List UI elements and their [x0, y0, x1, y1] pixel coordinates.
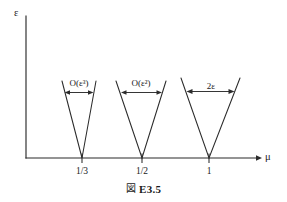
figure-caption-label: E3.5 — [139, 183, 161, 195]
figure-caption: 図E3.5 — [0, 180, 287, 195]
arnold-tongue-diagram: ε μ 1/3 O(ε³) 1/2 O(ε²) — [0, 0, 287, 202]
tongue-1-3-group: 1/3 O(ε³) — [62, 78, 96, 176]
tongue-1-2-arrow-right-icon — [157, 90, 163, 95]
x-axis-label: μ — [265, 151, 271, 162]
tongue-1-2-arrow-left-icon — [121, 90, 127, 95]
x-axis-arrow-icon — [256, 155, 262, 161]
x-tick-label-1-3: 1/3 — [76, 166, 88, 176]
figure-caption-mark: 図 — [126, 183, 136, 194]
tongue-1-group: 1 2ε — [181, 78, 240, 176]
y-axis-label: ε — [14, 7, 19, 18]
tongue-1-arrow-left-icon — [187, 89, 193, 94]
tongue-1-width-label: 2ε — [207, 81, 216, 91]
tongue-1-3-arrow-right-icon — [88, 90, 94, 95]
tongue-1-3-width-label: O(ε³) — [70, 78, 89, 88]
tongue-1-2-width-label: O(ε²) — [132, 78, 151, 88]
tongue-1-2-group: 1/2 O(ε²) — [116, 78, 166, 176]
x-tick-label-1: 1 — [207, 166, 212, 176]
x-tick-label-1-2: 1/2 — [136, 166, 148, 176]
figure-container: ε μ 1/3 O(ε³) 1/2 O(ε²) — [0, 0, 287, 202]
